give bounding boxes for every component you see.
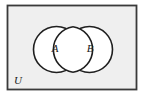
- venn-diagram-canvas: A B U: [0, 0, 145, 97]
- venn-diagram-figure: A B U: [0, 0, 145, 97]
- set-a-label: A: [51, 42, 59, 54]
- universe-label: U: [14, 74, 23, 86]
- set-b-label: B: [87, 42, 94, 54]
